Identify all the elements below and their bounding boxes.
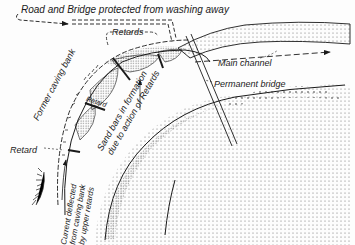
retards-top-label: Retards: [112, 28, 144, 37]
road-protected-arrow: [16, 14, 176, 42]
top-note-label: Road and Bridge protected from washing a…: [21, 5, 229, 15]
main-channel-label: Main channel: [218, 59, 272, 68]
retard-left-label: Retard: [10, 146, 37, 155]
sand-bar-3: [75, 105, 95, 140]
diagram-drawing: [0, 0, 355, 245]
river-training-diagram: Road and Bridge protected from washing a…: [0, 0, 355, 245]
permanent-bridge-label: Permanent bridge: [214, 80, 286, 89]
grass-tufts: [32, 168, 44, 205]
sand-bar-4: [158, 49, 182, 62]
retard-left-leader: [44, 148, 64, 150]
